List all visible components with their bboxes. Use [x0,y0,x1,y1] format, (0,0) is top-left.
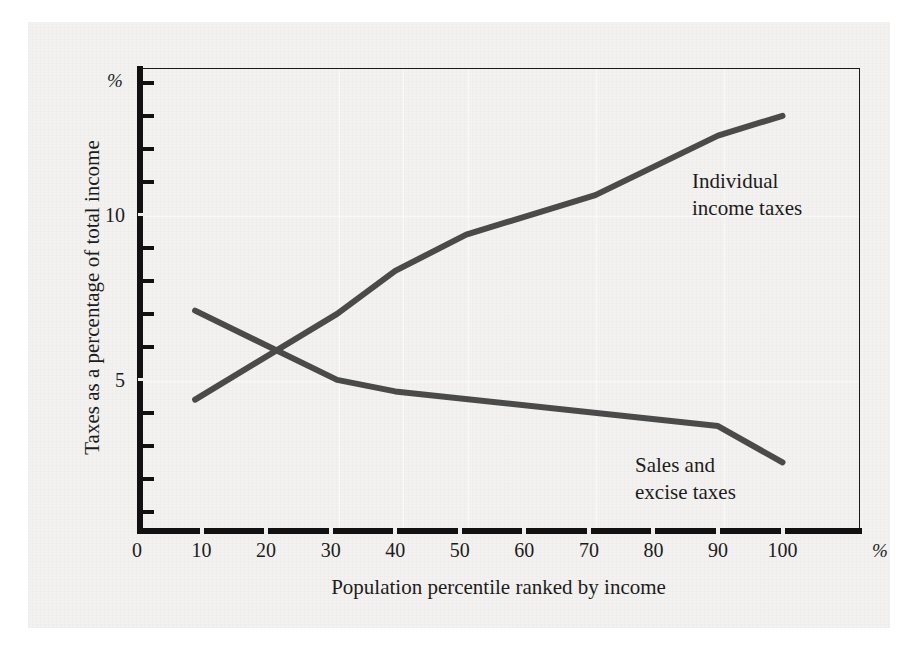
figure-page: % % Taxes as a percentage of total incom… [0,0,917,650]
x-axis-tick [458,524,462,538]
annotation-individual-income-taxes: Individual income taxes [692,168,802,222]
x-axis-tick [393,524,397,538]
x-axis-tick [200,524,204,538]
annotation-sales-and-excise-taxes: Sales and excise taxes [635,452,736,506]
x-axis-tick [329,524,333,538]
x-axis-tick [522,524,526,538]
x-axis-tick [651,524,655,538]
data-series-layer [0,0,917,650]
series-line-individual-income-taxes [195,116,782,400]
series-line-sales-and-excise-taxes [195,311,782,463]
x-axis-tick [716,524,720,538]
x-axis-tick [264,524,268,538]
x-axis-tick [781,524,785,538]
x-axis-tick [587,524,591,538]
